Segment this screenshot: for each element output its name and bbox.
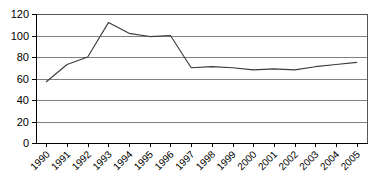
y-tick-label-0: 0 — [23, 137, 29, 149]
y-tick-label-40: 40 — [17, 94, 29, 106]
chart-canvas: 020406080100120 199019911992199319941995… — [0, 0, 379, 181]
y-tick-label-80: 80 — [17, 51, 29, 63]
y-tick-label-100: 100 — [11, 30, 29, 42]
y-tick-label-20: 20 — [17, 116, 29, 128]
line-chart: 020406080100120 199019911992199319941995… — [0, 0, 379, 181]
y-tick-label-60: 60 — [17, 73, 29, 85]
y-tick-label-120: 120 — [11, 8, 29, 20]
